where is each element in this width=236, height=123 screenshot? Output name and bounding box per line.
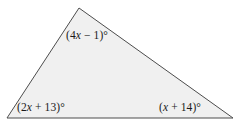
- angle-label-apex-prefix: (4: [66, 29, 76, 41]
- angle-label-bottom-right-suffix: + 14)°: [168, 101, 201, 113]
- angle-label-bottom-left-suffix: + 13)°: [32, 101, 65, 113]
- angle-label-apex: (4x − 1)°: [66, 30, 108, 42]
- angle-label-bottom-left: (2x + 13)°: [17, 102, 65, 114]
- angle-label-bottom-right: (x + 14)°: [159, 102, 201, 114]
- angle-label-bottom-left-prefix: (2: [17, 101, 27, 113]
- angle-label-apex-suffix: − 1)°: [81, 29, 108, 41]
